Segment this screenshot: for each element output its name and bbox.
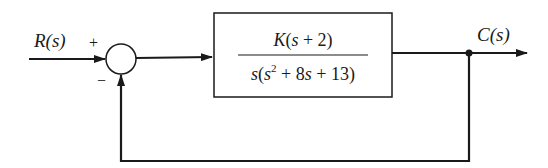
plant-numerator: K(s + 2) <box>272 30 332 51</box>
plus-sign: + <box>89 34 98 51</box>
block-diagram: R(s) + − K(s + 2) s(s2 + 8s + 13) C(s) <box>0 0 548 168</box>
summing-junction <box>106 44 136 74</box>
error-signal-line <box>136 57 212 58</box>
plant-denominator: s(s2 + 8s + 13) <box>251 62 355 85</box>
minus-sign: − <box>97 72 106 89</box>
input-label: R(s) <box>33 30 66 52</box>
output-label: C(s) <box>477 24 510 46</box>
